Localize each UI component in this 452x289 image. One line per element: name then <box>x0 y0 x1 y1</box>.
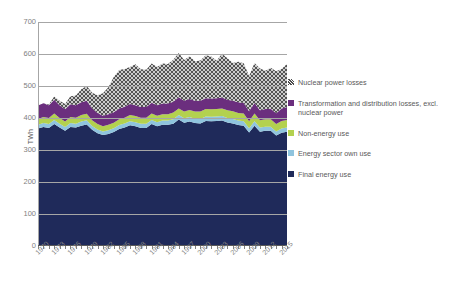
y-axis-tick-label: 200 <box>12 178 36 186</box>
y-axis-tick-label: 300 <box>12 146 36 154</box>
x-axis-tickmark <box>211 246 212 249</box>
gridline <box>38 118 287 119</box>
gridline <box>38 22 287 23</box>
x-axis-tickmark <box>98 246 99 249</box>
legend-item[interactable]: Final energy use <box>288 170 450 180</box>
legend-item[interactable]: Non-energy use <box>288 129 450 139</box>
legend-item-label: Transformation and distribution losses, … <box>298 99 450 118</box>
x-axis-tickmark <box>65 246 66 249</box>
blue-swatch <box>288 150 294 156</box>
stacked-area-chart: TWh 7006005004003002001000 1970197319761… <box>0 0 452 289</box>
x-axis-tickmark <box>260 246 261 249</box>
legend-item-label: Nuclear power losses <box>298 78 367 88</box>
x-axis-tick-label: 1970 <box>34 240 50 256</box>
gridline <box>38 182 287 183</box>
y-axis-line <box>38 22 39 246</box>
x-axis-tickmark <box>179 246 180 249</box>
gridline <box>38 54 287 55</box>
gridline <box>38 86 287 87</box>
gridline <box>38 214 287 215</box>
x-axis-tickmark <box>195 246 196 249</box>
area-series-canvas <box>38 22 287 246</box>
x-axis-tickmark <box>244 246 245 249</box>
navy-swatch <box>288 171 294 177</box>
x-axis-tickmark <box>49 246 50 249</box>
y-axis-tick-label: 700 <box>12 18 36 26</box>
plot-area <box>38 22 287 246</box>
gridline <box>38 150 287 151</box>
y-axis-tick-label: 0 <box>12 242 36 250</box>
y-axis-tick-label: 500 <box>12 82 36 90</box>
x-axis-tickmark <box>114 246 115 249</box>
y-axis-tick-label: 600 <box>12 50 36 58</box>
legend-item-label: Non-energy use <box>298 129 349 139</box>
x-axis-tickmark <box>130 246 131 249</box>
x-axis-tickmark <box>81 246 82 249</box>
x-axis-tickmark <box>276 246 277 249</box>
x-axis-tick-labels: 1970197319761979198219851988199119941997… <box>38 246 287 288</box>
legend-item[interactable]: Nuclear power losses <box>288 78 450 88</box>
purple-swatch <box>288 100 294 106</box>
legend-item[interactable]: Transformation and distribution losses, … <box>288 99 450 118</box>
x-axis-tickmark <box>227 246 228 249</box>
legend-item-label: Energy sector own use <box>298 149 371 159</box>
legend-item-label: Final energy use <box>298 170 351 180</box>
y-axis-tick-labels: 7006005004003002001000 <box>8 0 36 289</box>
chart-legend: Nuclear power lossesTransformation and d… <box>288 78 450 190</box>
x-axis-tickmark <box>146 246 147 249</box>
green-swatch <box>288 130 294 136</box>
y-axis-tick-label: 400 <box>12 114 36 122</box>
hatched-swatch <box>288 79 294 85</box>
legend-item[interactable]: Energy sector own use <box>288 149 450 159</box>
x-axis-tickmark <box>163 246 164 249</box>
y-axis-tick-label: 100 <box>12 210 36 218</box>
